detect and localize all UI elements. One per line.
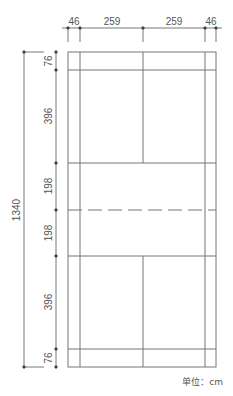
total-length-label: 1340 xyxy=(11,198,22,221)
unit-label: 单位：cm xyxy=(182,375,223,388)
width-dim-3: 259 xyxy=(166,16,183,27)
court-lines xyxy=(68,52,216,367)
total-length-dimension xyxy=(23,51,44,369)
length-dim-1: 76 xyxy=(43,55,54,67)
length-dim-4: 198 xyxy=(43,224,54,241)
width-dim-2: 259 xyxy=(104,16,121,27)
length-dim-3: 198 xyxy=(43,177,54,194)
width-dim-4: 46 xyxy=(205,16,217,27)
length-dimension xyxy=(55,51,58,369)
court-diagram: 46 259 259 46 76 396 198 198 396 76 1340 xyxy=(0,0,233,396)
width-dimension xyxy=(62,27,222,42)
width-dim-1: 46 xyxy=(68,16,80,27)
length-dim-6: 76 xyxy=(43,352,54,364)
length-dim-2: 396 xyxy=(43,107,54,124)
length-dim-5: 396 xyxy=(43,293,54,310)
